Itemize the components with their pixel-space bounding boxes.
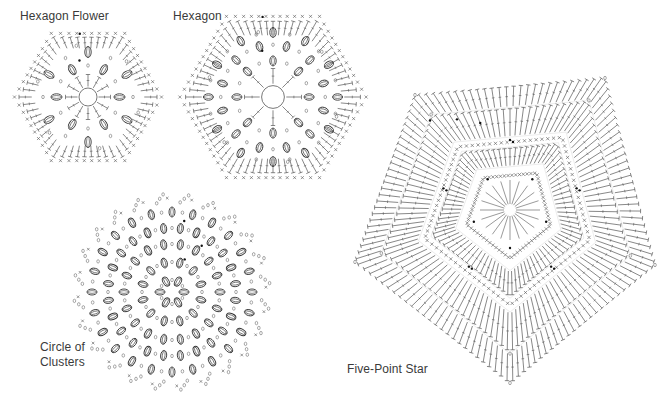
five-point-star-diagram [354,76,657,384]
crochet-diagrams-canvas [0,0,657,395]
circle-of-clusters-diagram [73,193,271,392]
hexagon-flower-diagram [13,32,163,162]
hexagon-diagram [178,15,367,179]
